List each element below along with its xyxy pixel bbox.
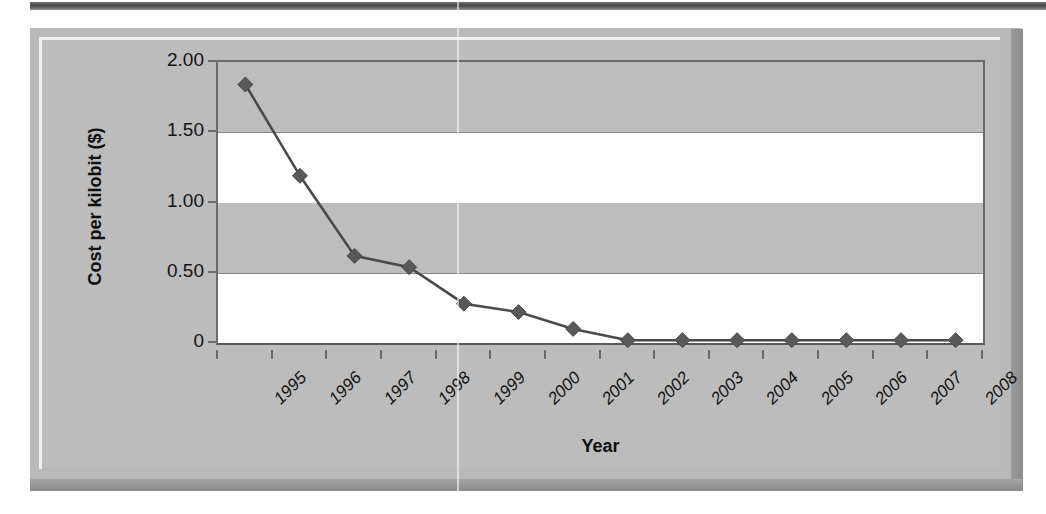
x-axis-tick-label: 2000: [544, 368, 585, 409]
y-axis-tick-mark: [208, 60, 217, 62]
data-point-marker[interactable]: [839, 333, 854, 348]
chart-frame: Cost per kilobit ($) 2.001.501.000.500 1…: [30, 28, 1022, 490]
x-axis-tick-mark: [599, 350, 601, 359]
y-axis-tick-mark: [208, 271, 217, 273]
x-axis-tick-label: 2004: [762, 368, 803, 409]
data-point-marker[interactable]: [238, 77, 253, 92]
series-layer: [218, 62, 983, 343]
data-point-marker[interactable]: [511, 305, 526, 320]
y-axis-tick-labels: 2.001.501.000.500: [126, 60, 204, 345]
data-point-marker[interactable]: [730, 333, 745, 348]
y-axis-title: Cost per kilobit ($): [85, 87, 106, 327]
x-axis-tick-label: 2006: [871, 368, 912, 409]
y-axis-tick-label: 1.00: [167, 190, 204, 212]
series-line: [245, 84, 955, 340]
data-point-marker[interactable]: [784, 333, 799, 348]
x-axis-tick-label: 2001: [598, 368, 639, 409]
x-axis-tick-mark: [271, 350, 273, 359]
x-axis-tick-label: 2007: [926, 368, 967, 409]
x-axis-tick-mark: [817, 350, 819, 359]
data-point-marker[interactable]: [894, 333, 909, 348]
y-axis-tick-mark: [208, 341, 217, 343]
x-axis-tick-label: 1998: [434, 368, 475, 409]
x-axis-tick-mark: [872, 350, 874, 359]
data-point-marker[interactable]: [948, 333, 963, 348]
x-axis-tick-label: 2005: [817, 368, 858, 409]
x-axis-tick-mark: [544, 350, 546, 359]
data-point-marker[interactable]: [566, 321, 581, 336]
x-axis-tick-label: 1995: [270, 368, 311, 409]
data-point-marker[interactable]: [402, 260, 417, 275]
x-axis-tick-mark: [653, 350, 655, 359]
y-axis-tick-mark: [208, 201, 217, 203]
x-axis-title: Year: [216, 436, 985, 457]
x-axis-tick-mark: [216, 350, 218, 359]
x-axis-tick-mark: [926, 350, 928, 359]
x-axis-tick-mark: [380, 350, 382, 359]
data-point-marker[interactable]: [347, 248, 362, 263]
x-axis-tick-mark: [762, 350, 764, 359]
data-point-marker[interactable]: [620, 333, 635, 348]
x-axis-tick-mark: [981, 350, 983, 359]
x-axis-tick-mark: [489, 350, 491, 359]
y-axis-tick-label: 0.50: [167, 260, 204, 282]
x-axis-tick-mark: [435, 350, 437, 359]
data-point-marker[interactable]: [292, 168, 307, 183]
chart-plot-wrapper: Cost per kilobit ($) 2.001.501.000.500 1…: [30, 28, 1022, 490]
x-axis-tick-label: 1997: [380, 368, 421, 409]
y-axis-tick-mark: [208, 130, 217, 132]
y-axis-tick-label: 2.00: [167, 49, 204, 71]
x-axis-tick-label: 2002: [653, 368, 694, 409]
plot-area: [216, 60, 985, 345]
x-axis-tick-mark: [325, 350, 327, 359]
x-axis-tick-label: 1999: [489, 368, 530, 409]
x-axis-tick-label: 2008: [981, 368, 1022, 409]
y-axis-tick-label: 1.50: [167, 119, 204, 141]
data-point-marker[interactable]: [456, 296, 471, 311]
y-axis-tick-label: 0: [193, 330, 204, 352]
x-axis-tick-label: 2003: [708, 368, 749, 409]
page-top-rule: [30, 2, 1046, 10]
x-axis-tick-label: 1996: [325, 368, 366, 409]
data-point-marker[interactable]: [675, 333, 690, 348]
x-axis-tick-mark: [708, 350, 710, 359]
x-axis-tick-labels: 1995199619971998199920002001200220032004…: [216, 350, 985, 440]
